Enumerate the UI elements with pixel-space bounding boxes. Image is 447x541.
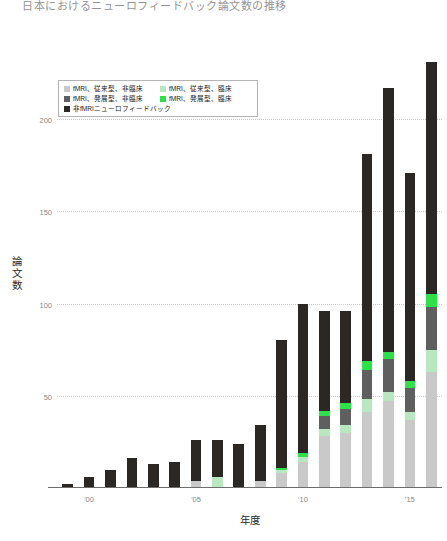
chart-figure: 日本におけるニューロフィードバック論文数の推移 論文数 50100150200 … bbox=[0, 0, 447, 541]
bar-segment bbox=[148, 464, 159, 488]
bar-segment bbox=[298, 462, 309, 488]
bar-2002[interactable] bbox=[127, 458, 138, 488]
bar-segment bbox=[383, 392, 394, 401]
x-axis-tick-label: '05 bbox=[191, 495, 201, 504]
bar-2001[interactable] bbox=[105, 470, 116, 488]
legend-label: 非fMRIニューロフィードバック bbox=[73, 104, 171, 113]
bar-segment bbox=[362, 399, 373, 412]
bar-segment bbox=[169, 462, 180, 488]
bar-segment bbox=[105, 470, 116, 488]
bar-segment bbox=[383, 401, 394, 488]
legend-item[interactable]: fMRI、従来型、臨床 bbox=[160, 84, 256, 93]
bar-segment bbox=[362, 361, 373, 370]
bar-segment bbox=[405, 173, 416, 381]
bar-segment bbox=[340, 409, 351, 426]
x-axis-line bbox=[48, 487, 442, 488]
y-axis-tick-label: 100 bbox=[39, 300, 52, 309]
bar-segment bbox=[426, 62, 437, 294]
bar-segment bbox=[276, 473, 287, 488]
bar-segment bbox=[405, 412, 416, 419]
y-axis-tick-label: 50 bbox=[44, 392, 52, 401]
bar-segment bbox=[340, 433, 351, 488]
x-axis-tick-label: '00 bbox=[84, 495, 94, 504]
bar-2015[interactable] bbox=[405, 173, 416, 488]
bar-segment bbox=[426, 350, 437, 372]
bar-2003[interactable] bbox=[148, 464, 159, 488]
legend-swatch-icon bbox=[64, 96, 70, 102]
y-axis-tick-label: 200 bbox=[39, 116, 52, 125]
bar-segment bbox=[405, 420, 416, 488]
y-axis-label: 論文数 bbox=[9, 256, 25, 291]
legend-label: fMRI、発展型、非臨床 bbox=[73, 94, 143, 103]
bar-segment bbox=[340, 425, 351, 432]
bar-2016[interactable] bbox=[426, 62, 437, 488]
bar-segment bbox=[340, 311, 351, 403]
bar-2006[interactable] bbox=[212, 440, 223, 488]
bar-segment bbox=[319, 311, 330, 411]
legend-item[interactable]: fMRI、従来型、非臨床 bbox=[64, 84, 160, 93]
bar-2010[interactable] bbox=[298, 304, 309, 488]
legend-swatch-icon bbox=[160, 96, 166, 102]
bar-2012[interactable] bbox=[340, 311, 351, 488]
legend-swatch-icon bbox=[160, 86, 166, 92]
bar-segment bbox=[319, 416, 330, 429]
bar-segment bbox=[426, 294, 437, 307]
bar-2004[interactable] bbox=[169, 462, 180, 488]
bar-2009[interactable] bbox=[276, 340, 287, 488]
bar-segment bbox=[426, 372, 437, 488]
plot-area: 論文数 50100150200 '00'05'10'15 年度 bbox=[57, 60, 442, 488]
bar-segment bbox=[233, 444, 244, 488]
bar-segment bbox=[426, 307, 437, 349]
legend-label: fMRI、従来型、非臨床 bbox=[73, 84, 143, 93]
x-axis-tick-label: '10 bbox=[298, 495, 308, 504]
legend-swatch-icon bbox=[64, 106, 70, 112]
x-axis-label: 年度 bbox=[57, 512, 442, 527]
bar-segment bbox=[362, 370, 373, 400]
chart-legend: fMRI、従来型、非臨床fMRI、従来型、臨床fMRI、発展型、非臨床fMRI、… bbox=[58, 80, 258, 117]
y-axis-tick-label: 150 bbox=[39, 208, 52, 217]
legend-item[interactable]: fMRI、発展型、臨床 bbox=[160, 94, 256, 103]
bar-segment bbox=[362, 154, 373, 361]
bar-segment bbox=[362, 412, 373, 488]
chart-title: 日本におけるニューロフィードバック論文数の推移 bbox=[22, 0, 287, 13]
bar-segment bbox=[405, 388, 416, 412]
bar-2014[interactable] bbox=[383, 88, 394, 488]
x-axis-tick-label: '15 bbox=[405, 495, 415, 504]
bar-segment bbox=[405, 381, 416, 388]
bar-segment bbox=[383, 359, 394, 392]
legend-swatch-icon bbox=[64, 86, 70, 92]
bar-segment bbox=[383, 352, 394, 359]
legend-label: fMRI、従来型、臨床 bbox=[169, 84, 232, 93]
bar-segment bbox=[255, 425, 266, 480]
bar-series-group bbox=[57, 60, 442, 488]
legend-label: fMRI、発展型、臨床 bbox=[169, 94, 232, 103]
bar-segment bbox=[319, 429, 330, 436]
bar-segment bbox=[127, 458, 138, 488]
bar-2008[interactable] bbox=[255, 425, 266, 488]
bar-2011[interactable] bbox=[319, 311, 330, 488]
bar-2007[interactable] bbox=[233, 444, 244, 488]
bar-segment bbox=[298, 304, 309, 453]
bar-segment bbox=[276, 340, 287, 467]
bar-segment bbox=[383, 88, 394, 352]
legend-item[interactable]: fMRI、発展型、非臨床 bbox=[64, 94, 160, 103]
bar-segment bbox=[319, 436, 330, 488]
bar-segment bbox=[212, 440, 223, 477]
bar-2005[interactable] bbox=[191, 440, 202, 488]
legend-item[interactable]: 非fMRIニューロフィードバック bbox=[64, 104, 256, 113]
bar-2013[interactable] bbox=[362, 154, 373, 488]
bar-segment bbox=[191, 440, 202, 481]
